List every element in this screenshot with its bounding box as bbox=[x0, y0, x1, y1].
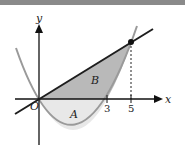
tick-label-5: 5 bbox=[128, 103, 134, 114]
x-axis-arrow-icon bbox=[154, 95, 163, 103]
x-axis-label: x bbox=[165, 93, 172, 106]
region-label-b: B bbox=[90, 74, 99, 87]
y-axis-arrow-icon bbox=[35, 24, 43, 33]
graph: y x O 3 5 B A bbox=[0, 0, 185, 155]
region-label-a: A bbox=[69, 108, 78, 121]
tick-label-3: 3 bbox=[104, 103, 110, 114]
intersection-point bbox=[128, 39, 134, 45]
origin-label: O bbox=[30, 100, 39, 113]
y-axis-label: y bbox=[35, 12, 43, 25]
